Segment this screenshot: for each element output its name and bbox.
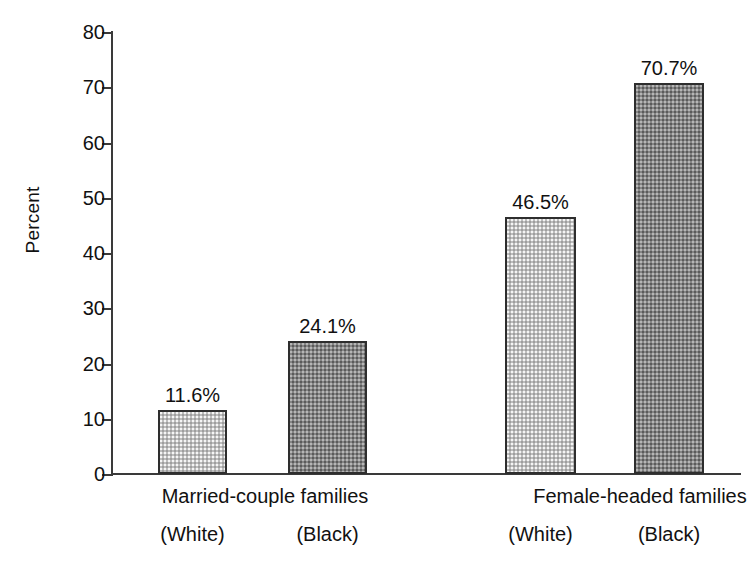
group-label: Married-couple families <box>162 486 369 506</box>
bar-value-label: 24.1% <box>299 316 356 336</box>
y-tick-label: 20 <box>83 354 105 374</box>
y-tick-label: 60 <box>83 133 105 153</box>
y-axis-title: Percent <box>22 140 46 300</box>
y-tick-label: 0 <box>94 464 105 484</box>
plot-area: 80706050403020100 11.6%24.1%46.5%70.7% <box>112 32 740 474</box>
bar[interactable]: 46.5% <box>505 217 576 474</box>
bar-chart: Percent 80706050403020100 11.6%24.1%46.5… <box>0 0 756 567</box>
bar-value-label: 70.7% <box>641 58 698 78</box>
group-label: Female-headed families <box>533 486 746 506</box>
y-tick-label: 40 <box>83 243 105 263</box>
y-tick-label: 80 <box>83 22 105 42</box>
y-tick-label: 70 <box>83 77 105 97</box>
bar[interactable]: 70.7% <box>634 83 704 474</box>
series-label: (Black) <box>638 524 700 544</box>
series-label: (Black) <box>296 524 358 544</box>
y-tick-label: 50 <box>83 188 105 208</box>
bar-value-label: 46.5% <box>512 192 569 212</box>
y-tick-label: 10 <box>83 409 105 429</box>
series-label: (White) <box>160 524 224 544</box>
series-label: (White) <box>508 524 572 544</box>
y-tick-label: 30 <box>83 298 105 318</box>
bar-value-label: 11.6% <box>165 385 220 405</box>
bar[interactable]: 24.1% <box>288 341 367 474</box>
bar[interactable]: 11.6% <box>158 410 227 474</box>
